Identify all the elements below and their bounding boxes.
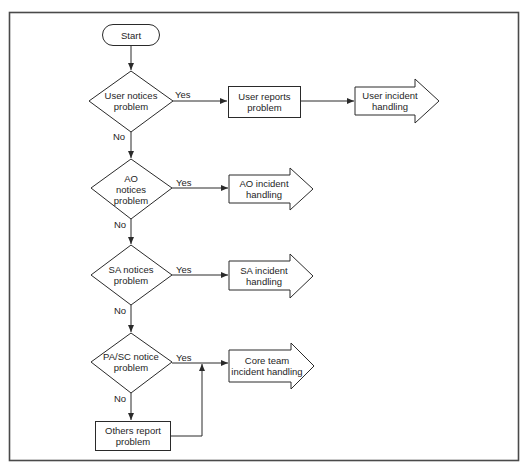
process-user-reports-label: User reports problem [229,87,300,117]
flowchart-canvas: Start User notices problem User reports … [0,0,528,469]
process-others-report-label: Others report problem [96,422,170,450]
edge-label-user-yes: Yes [175,89,191,100]
edge-label-pasc-no: No [114,393,126,404]
edge-label-ao-yes: Yes [176,177,192,188]
connector-others-return [170,364,202,436]
edge-label-sa-no: No [114,305,126,316]
edge-label-ao-no: No [114,219,126,230]
diagram-frame [10,13,519,461]
flowchart-shapes [0,0,528,469]
outcome-ao-label: AO incident handling [230,175,298,203]
edge-label-user-no: No [113,131,125,142]
outcome-user-label: User incident handling [356,87,424,115]
outcome-sa-label: SA incident handling [230,262,298,290]
decision-pasc-label: PA/SC notice problem [93,349,169,375]
decision-sa-label: SA notices problem [96,262,166,288]
start-label: Start [102,24,160,46]
edge-label-sa-yes: Yes [176,264,192,275]
decision-user-label: User notices problem [92,88,170,114]
decision-ao-label: AO notices problem [98,171,164,207]
edge-label-pasc-yes: Yes [176,352,192,363]
outcome-core-team-label: Core team incident handling [229,351,305,381]
